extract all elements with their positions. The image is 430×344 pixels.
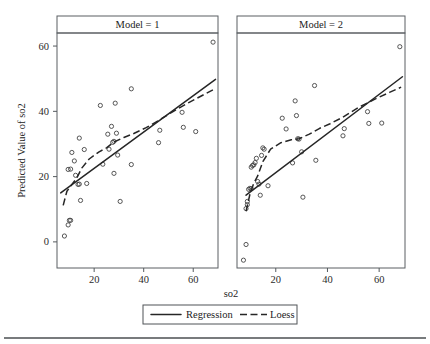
data-point	[294, 113, 298, 117]
scatter-plot-figure: Model = 10204060204060Model = 2204060so2…	[0, 0, 430, 344]
legend-label-regression: Regression	[186, 309, 233, 320]
y-axis-title: Predicted Value of so2	[16, 103, 27, 198]
panel-strip-label-1: Model = 1	[116, 19, 160, 30]
legend: RegressionLoess	[143, 305, 297, 324]
data-point	[259, 153, 263, 157]
x-axis-title: so2	[224, 288, 239, 299]
data-point	[266, 184, 270, 188]
data-point	[194, 129, 198, 133]
data-point	[314, 158, 318, 162]
panel-2: Model = 2204060	[237, 16, 405, 285]
panel-frame-1	[57, 33, 218, 268]
data-point	[180, 110, 184, 114]
data-point	[158, 128, 162, 132]
data-point	[118, 199, 122, 203]
regression-line	[61, 79, 216, 193]
panel-strip-label-2: Model = 2	[299, 19, 343, 30]
data-point	[254, 156, 258, 160]
data-point	[109, 124, 113, 128]
data-point	[280, 116, 284, 120]
data-point	[70, 150, 74, 154]
x-tick-label-2-60: 60	[374, 274, 385, 285]
data-point	[82, 147, 86, 151]
loess-line	[63, 89, 214, 205]
data-point	[72, 159, 76, 163]
data-point	[241, 258, 245, 262]
data-point	[113, 101, 117, 105]
y-tick-label-40: 40	[39, 106, 50, 117]
data-point	[129, 162, 133, 166]
data-point	[129, 87, 133, 91]
x-tick-label-2-20: 20	[271, 274, 282, 285]
data-point	[244, 242, 248, 246]
legend-label-loess: Loess	[270, 309, 295, 320]
x-tick-label-1-20: 20	[89, 274, 100, 285]
data-point	[116, 153, 120, 157]
panel-data-1	[61, 40, 216, 238]
data-point	[380, 121, 384, 125]
data-point	[112, 171, 116, 175]
data-point	[156, 141, 160, 145]
data-point	[114, 131, 118, 135]
data-point	[211, 40, 215, 44]
data-point	[293, 99, 297, 103]
data-point	[62, 234, 66, 238]
data-point	[78, 198, 82, 202]
data-point	[284, 127, 288, 131]
data-point	[77, 136, 81, 140]
data-point	[365, 110, 369, 114]
data-point	[301, 195, 305, 199]
y-tick-label-60: 60	[39, 41, 50, 52]
data-point	[85, 181, 89, 185]
x-tick-label-1-60: 60	[188, 274, 199, 285]
data-point	[398, 45, 402, 49]
figure-container: Model = 10204060204060Model = 2204060so2…	[0, 0, 430, 344]
data-point	[106, 132, 110, 136]
loess-line	[246, 87, 401, 211]
data-point	[342, 127, 346, 131]
panel-data-2	[241, 45, 402, 263]
data-point	[341, 134, 345, 138]
x-tick-label-2-40: 40	[322, 274, 333, 285]
data-point	[367, 121, 371, 125]
y-tick-label-0: 0	[44, 236, 49, 247]
data-point	[312, 83, 316, 87]
panel-1: Model = 10204060204060	[39, 16, 219, 285]
data-point	[98, 103, 102, 107]
y-tick-label-20: 20	[39, 171, 50, 182]
data-point	[181, 125, 185, 129]
x-tick-label-1-40: 40	[138, 274, 149, 285]
data-point	[258, 193, 262, 197]
data-point	[66, 223, 70, 227]
regression-line	[246, 77, 402, 195]
